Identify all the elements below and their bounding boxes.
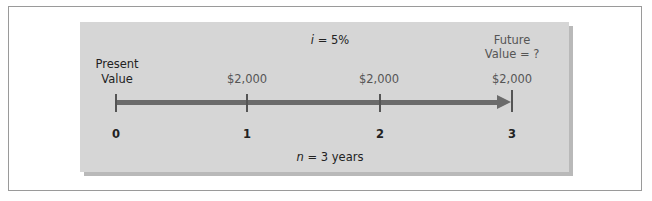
tick-label-2: 2 [370,127,390,141]
rate-value: = 5% [314,33,349,47]
periods-label: n = 3 years [270,150,390,164]
tick-label-0: 0 [106,127,126,141]
tick-0 [115,94,117,112]
future-value-label-line2: Value = ? [472,47,552,61]
tick-label-3: 3 [502,127,522,141]
tick-1 [246,94,248,112]
arrowhead-icon [497,95,511,109]
payment-3: $2,000 [482,72,542,86]
tick-label-1: 1 [237,127,257,141]
payment-2: $2,000 [349,72,409,86]
timeline-bar [116,100,499,105]
interest-rate-label: i = 5% [290,33,370,47]
periods-variable: n [297,150,304,164]
periods-value: = 3 years [304,150,364,164]
future-value-label-line1: Future [472,33,552,47]
tick-2 [379,94,381,112]
payment-1: $2,000 [217,72,277,86]
present-value-label-line2: Value [90,72,144,86]
present-value-label-line1: Present [90,57,144,71]
tick-3 [511,90,513,112]
